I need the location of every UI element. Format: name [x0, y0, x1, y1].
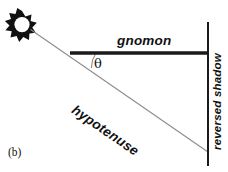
diagram-canvas	[0, 0, 228, 172]
figure-panel: gnomon hypotenuse reversed shadow θ (b)	[0, 0, 228, 172]
angle-theta-label: θ	[94, 57, 102, 70]
sun-disc-hole	[14, 17, 29, 32]
reversed-shadow-label: reversed shadow	[212, 53, 224, 150]
sun-icon	[5, 8, 37, 42]
panel-label: (b)	[8, 147, 21, 159]
gnomon-label: gnomon	[117, 34, 171, 48]
